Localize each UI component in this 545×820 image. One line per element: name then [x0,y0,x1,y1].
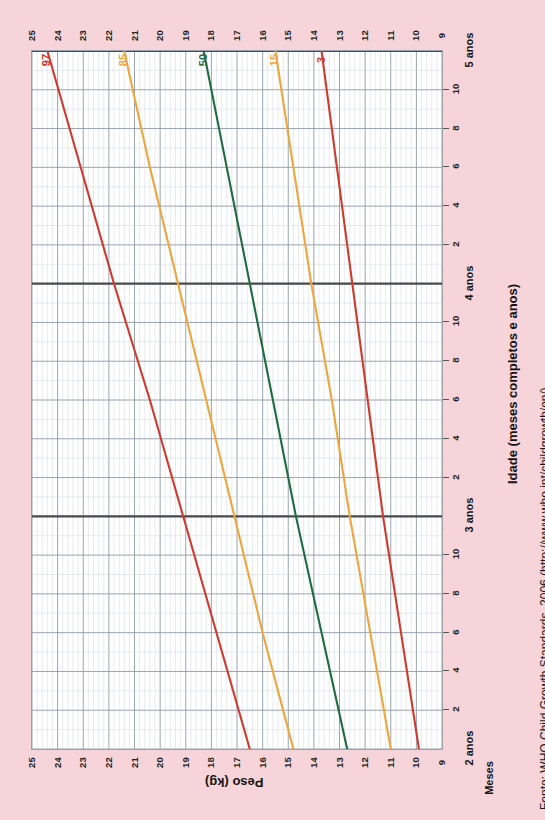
age-year-label-24m: 2 anos [460,722,478,774]
weight-tick-bottom-15: 15 [282,753,293,773]
weight-tick-bottom-12: 12 [359,753,370,773]
weight-tick-bottom-23: 23 [77,753,88,773]
weight-tick-top-25: 25 [26,26,37,46]
percentile-label-3: 3 [315,50,327,70]
percentile-label-85: 85 [117,50,129,70]
percentile-curve-15 [275,51,390,749]
percentile-curve-97 [47,51,249,749]
age-year-label-60m: 5 anos [460,24,478,76]
weight-tick-bottom-11: 11 [384,753,395,773]
weight-tick-bottom-9: 9 [436,753,447,773]
age-month-tick-50m: 2 [448,233,464,255]
age-month-tick-42m: 6 [448,388,464,410]
age-month-tick-34m: 10 [448,543,464,565]
weight-tick-top-14: 14 [307,26,318,46]
weight-tick-top-21: 21 [128,26,139,46]
weight-tick-bottom-21: 21 [128,753,139,773]
weight-tick-bottom-20: 20 [154,753,165,773]
age-month-tick-44m: 8 [448,349,464,371]
weight-tick-bottom-19: 19 [179,753,190,773]
percentile-label-15: 15 [268,50,280,70]
age-month-tick-54m: 6 [448,155,464,177]
age-year-label-48m: 4 anos [460,257,478,309]
weight-tick-top-19: 19 [179,26,190,46]
weight-tick-bottom-22: 22 [102,753,113,773]
weight-tick-top-10: 10 [410,26,421,46]
weight-tick-bottom-25: 25 [26,753,37,773]
age-month-tick-32m: 8 [448,582,464,604]
chart-plot-area [31,50,443,750]
age-month-tick-52m: 4 [448,194,464,216]
age-month-tick-26m: 2 [448,698,464,720]
weight-tick-top-11: 11 [384,26,395,46]
age-month-tick-58m: 10 [448,78,464,100]
weight-tick-top-20: 20 [154,26,165,46]
percentile-curves [32,51,442,749]
weight-tick-bottom-17: 17 [231,753,242,773]
weight-tick-bottom-13: 13 [333,753,344,773]
weight-tick-bottom-18: 18 [205,753,216,773]
weight-tick-top-12: 12 [359,26,370,46]
weight-tick-top-15: 15 [282,26,293,46]
source-citation: Fonte: WHO Child Growth Standards, 2006 … [538,387,545,810]
weight-tick-top-16: 16 [256,26,267,46]
age-month-tick-40m: 4 [448,427,464,449]
age-month-tick-46m: 10 [448,310,464,332]
percentile-label-50: 50 [197,50,209,70]
weight-tick-top-9: 9 [436,26,447,46]
age-year-label-36m: 3 anos [460,489,478,541]
percentile-curve-3 [322,51,419,749]
weight-axis-title: Peso (kg) [205,775,264,790]
age-axis-title: Idade (meses completos e anos) [505,284,520,484]
months-label: Meses [483,756,495,800]
weight-tick-top-18: 18 [205,26,216,46]
age-month-tick-38m: 2 [448,466,464,488]
percentile-curve-50 [204,51,348,749]
age-month-tick-56m: 8 [448,117,464,139]
weight-tick-top-17: 17 [231,26,242,46]
weight-tick-bottom-10: 10 [410,753,421,773]
weight-tick-top-23: 23 [77,26,88,46]
percentile-label-97: 97 [40,50,52,70]
age-month-tick-30m: 6 [448,621,464,643]
weight-tick-bottom-24: 24 [51,753,62,773]
weight-tick-top-22: 22 [102,26,113,46]
weight-tick-bottom-14: 14 [307,753,318,773]
weight-tick-top-13: 13 [333,26,344,46]
growth-chart-page: 252423222120191817161514131211109 978550… [0,0,545,820]
weight-tick-bottom-16: 16 [256,753,267,773]
age-month-tick-28m: 4 [448,659,464,681]
weight-tick-top-24: 24 [51,26,62,46]
